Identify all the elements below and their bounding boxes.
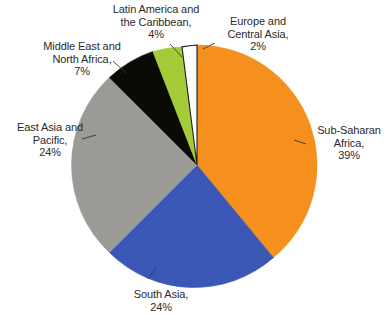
pie-chart-page: Latin America and the Caribbean, 4% Euro… (0, 0, 390, 327)
pie-label-latin-america-and-the-caribbean: Latin America and the Caribbean, 4% (98, 3, 214, 41)
pie-label-middle-east-and-north-africa: Middle East and North Africa, 7% (28, 40, 136, 78)
pie-label-east-asia-and-pacific: East Asia and Pacific, 24% (2, 121, 98, 159)
pie-label-south-asia: South Asia, 24% (106, 288, 216, 313)
pie-label-europe-and-central-asia: Europe and Central Asia, 2% (212, 15, 304, 53)
pie-label-sub-saharan-africa: Sub-Saharan Africa, 39% (310, 124, 388, 162)
